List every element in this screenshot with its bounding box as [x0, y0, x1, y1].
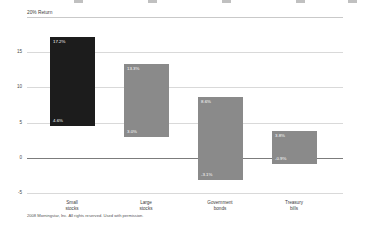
category-label-treasury-bills: Treasury bills	[285, 200, 303, 212]
bar-value-low: 4.6%	[53, 119, 63, 123]
page-crop-artifact	[0, 0, 367, 9]
bar-government-bonds: 8.6% -3.1%	[198, 97, 243, 180]
bar-value-high: 13.3%	[127, 67, 139, 71]
category-label-government-bonds: Government bonds	[207, 200, 232, 212]
bar-value-high: 3.8%	[275, 134, 285, 138]
plot-area: 20% Return 15 10 5 0 -5 17.2% 4.6% 13.3%…	[27, 17, 343, 193]
y-axis-title: 20% Return	[27, 11, 52, 16]
bar-large-stocks: 13.3% 3.0%	[124, 64, 169, 137]
bar-value-high: 8.6%	[201, 100, 211, 104]
y-tick-15: 15	[17, 50, 22, 55]
copyright-note: 2008 Morningstar, Inc. All rights reserv…	[27, 214, 144, 218]
return-chart: 20% Return 15 10 5 0 -5 17.2% 4.6% 13.3%…	[0, 0, 367, 232]
bar-value-high: 17.2%	[53, 40, 65, 44]
gridline-20	[27, 17, 343, 18]
bar-value-low: -0.9%	[275, 157, 286, 161]
bar-treasury-bills: 3.8% -0.9%	[272, 131, 317, 164]
y-tick-5: 5	[19, 121, 22, 126]
category-label-small-stocks: Small stocks	[65, 200, 78, 212]
bar-value-low: -3.1%	[201, 173, 212, 177]
bar-value-low: 3.0%	[127, 130, 137, 134]
y-tick-10: 10	[17, 85, 22, 90]
y-tick-neg5: -5	[18, 191, 22, 196]
y-tick-0: 0	[19, 156, 22, 161]
gridline-neg5	[27, 193, 343, 194]
bar-small-stocks: 17.2% 4.6%	[50, 37, 95, 126]
category-label-large-stocks: Large stocks	[139, 200, 152, 212]
